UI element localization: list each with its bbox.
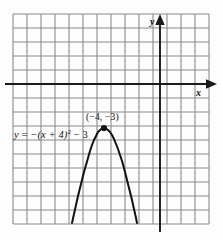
x-axis-arrow-icon xyxy=(206,79,217,88)
y-axis-arrow-icon xyxy=(155,14,164,25)
y-axis-label: y xyxy=(150,17,154,27)
graph-figure: y = −(x + 4)2 − 3 (−4, −3) x y xyxy=(0,0,223,240)
vertex-point-marker xyxy=(101,125,107,131)
parabola-curve xyxy=(72,128,137,223)
equation-equals: = xyxy=(19,129,30,140)
equation-body: −(x + 4) xyxy=(30,129,67,140)
vertex-coordinate-label: (−4, −3) xyxy=(86,113,119,123)
x-axis-label: x xyxy=(196,88,201,98)
equation-suffix: − 3 xyxy=(71,129,88,140)
equation-label: y = −(x + 4)2 − 3 xyxy=(14,130,88,141)
